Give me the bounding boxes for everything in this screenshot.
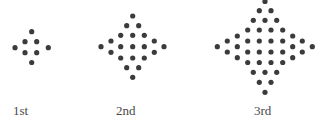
dot <box>268 80 273 85</box>
dot <box>124 65 129 70</box>
dot <box>142 44 147 49</box>
dot <box>118 55 123 60</box>
dot <box>268 49 273 54</box>
dot <box>22 39 27 44</box>
dot <box>310 44 315 49</box>
dot <box>245 49 250 54</box>
dot <box>118 44 123 49</box>
dot <box>34 50 39 55</box>
dot <box>34 39 39 44</box>
dot <box>130 44 135 49</box>
dot <box>46 45 51 50</box>
dot <box>274 18 279 23</box>
dot <box>124 23 129 28</box>
dot <box>130 33 135 38</box>
dot <box>108 50 113 55</box>
dot <box>257 49 262 54</box>
dot <box>290 55 295 60</box>
dot <box>251 70 256 75</box>
dot <box>280 27 285 32</box>
dot <box>251 18 256 23</box>
dot <box>290 33 295 38</box>
dot <box>29 29 34 34</box>
figure-2nd-dot-pattern <box>98 13 166 80</box>
dot <box>98 44 103 49</box>
dot <box>130 13 135 18</box>
dot <box>235 55 240 60</box>
dot <box>290 44 295 49</box>
dot <box>257 8 262 13</box>
dot <box>257 80 262 85</box>
dot <box>262 0 267 4</box>
dot <box>262 90 267 95</box>
dot <box>257 38 262 43</box>
dot-pattern-diagram <box>0 0 329 126</box>
dot <box>257 60 262 65</box>
dot <box>268 38 273 43</box>
dot <box>142 55 147 60</box>
dot <box>225 49 230 54</box>
dot <box>12 45 17 50</box>
dot <box>262 18 267 23</box>
figure-3rd-dot-pattern <box>215 0 315 95</box>
dot <box>142 33 147 38</box>
dot <box>257 27 262 32</box>
dot <box>280 49 285 54</box>
figure-label-2nd: 2nd <box>116 104 136 118</box>
dot <box>235 44 240 49</box>
dot <box>300 49 305 54</box>
dot <box>136 65 141 70</box>
dot <box>215 44 220 49</box>
dot <box>130 75 135 80</box>
dot <box>245 27 250 32</box>
dot <box>280 38 285 43</box>
dot <box>262 70 267 75</box>
figure-label-3rd: 3rd <box>254 104 271 118</box>
dot <box>29 60 34 65</box>
dot <box>245 60 250 65</box>
dot <box>152 38 157 43</box>
dot <box>161 44 166 49</box>
figure-label-1st: 1st <box>13 104 28 118</box>
dot <box>108 38 113 43</box>
dot <box>268 8 273 13</box>
dot <box>245 38 250 43</box>
dot <box>268 27 273 32</box>
dot <box>280 60 285 65</box>
dot <box>130 55 135 60</box>
dot <box>152 50 157 55</box>
dot <box>300 38 305 43</box>
dot <box>235 33 240 38</box>
dot <box>225 38 230 43</box>
dot <box>22 50 27 55</box>
figure-1st-dot-pattern <box>12 29 51 65</box>
dot <box>118 33 123 38</box>
dot <box>136 23 141 28</box>
dot <box>274 70 279 75</box>
dot <box>268 60 273 65</box>
